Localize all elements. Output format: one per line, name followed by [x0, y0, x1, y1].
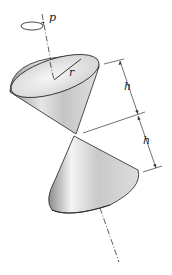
- rotation-arrow-icon: [21, 22, 44, 30]
- rotation-axis-lower: [100, 208, 119, 262]
- upper-cone: [6, 46, 104, 134]
- dimension-extension-bottom: [143, 166, 162, 172]
- height-label-upper: h: [124, 80, 131, 93]
- rotation-label: p: [49, 11, 56, 24]
- double-cone-diagram: p r h h: [0, 0, 172, 275]
- height-label-lower: h: [143, 134, 150, 147]
- dimension-extension-mid: [83, 112, 145, 133]
- lower-cone: [49, 136, 139, 213]
- radius-label: r: [69, 66, 75, 79]
